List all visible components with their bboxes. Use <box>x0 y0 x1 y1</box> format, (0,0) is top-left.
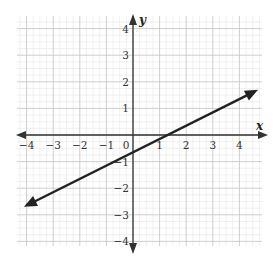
svg-text:0: 0 <box>123 139 130 151</box>
svg-text:−4: −4 <box>114 235 130 247</box>
y-axis-label: y <box>138 13 147 27</box>
svg-text:3: 3 <box>209 139 216 151</box>
svg-text:4: 4 <box>236 139 243 151</box>
svg-text:−3: −3 <box>114 209 129 221</box>
x-axis-label: x <box>255 119 264 133</box>
svg-text:1: 1 <box>122 102 129 114</box>
svg-text:−4: −4 <box>19 139 35 151</box>
svg-text:4: 4 <box>122 23 129 35</box>
minor-grid <box>17 16 262 246</box>
svg-text:2: 2 <box>122 76 129 88</box>
svg-text:2: 2 <box>183 139 190 151</box>
svg-text:−2: −2 <box>114 182 129 194</box>
coordinate-plane: −4−3−2−1012344321−1−2−3−4 x y <box>0 0 275 261</box>
axes <box>16 14 268 254</box>
svg-text:−1: −1 <box>99 139 114 151</box>
svg-text:−3: −3 <box>45 139 60 151</box>
svg-text:3: 3 <box>122 49 129 61</box>
svg-text:−2: −2 <box>72 139 87 151</box>
